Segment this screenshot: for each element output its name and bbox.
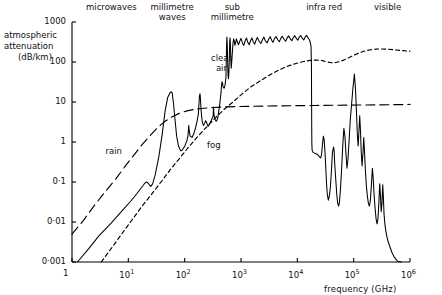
x-tick-label: 105 <box>345 268 360 280</box>
x-tick-label: 106 <box>401 268 416 280</box>
y-tick-label: 1000 <box>22 16 66 26</box>
curve-annotation: rain <box>92 146 136 156</box>
atmospheric-attenuation-figure: atmosphericattenuation(dB/km) frequency … <box>0 0 442 295</box>
y-tick-label: 0·001 <box>22 256 66 266</box>
band-label: submillimetre <box>189 2 275 22</box>
curve-annotation: fog <box>192 140 236 150</box>
x-tick-label: 104 <box>288 268 303 280</box>
y-tick-label: 1 <box>22 136 66 146</box>
x-tick-label: 101 <box>119 268 134 280</box>
x-tick-label: 1 <box>63 268 68 278</box>
x-axis-title: frequency (GHz) <box>324 284 396 294</box>
y-tick-label: 10 <box>22 96 66 106</box>
x-tick-label: 102 <box>176 268 191 280</box>
y-tick-label: 100 <box>22 56 66 66</box>
curve-annotation: clearair <box>199 53 243 73</box>
x-tick-label: 103 <box>232 268 247 280</box>
y-tick-label: 0·1 <box>22 176 66 186</box>
y-tick-label: 0·01 <box>22 216 66 226</box>
band-label: visible <box>345 2 431 12</box>
